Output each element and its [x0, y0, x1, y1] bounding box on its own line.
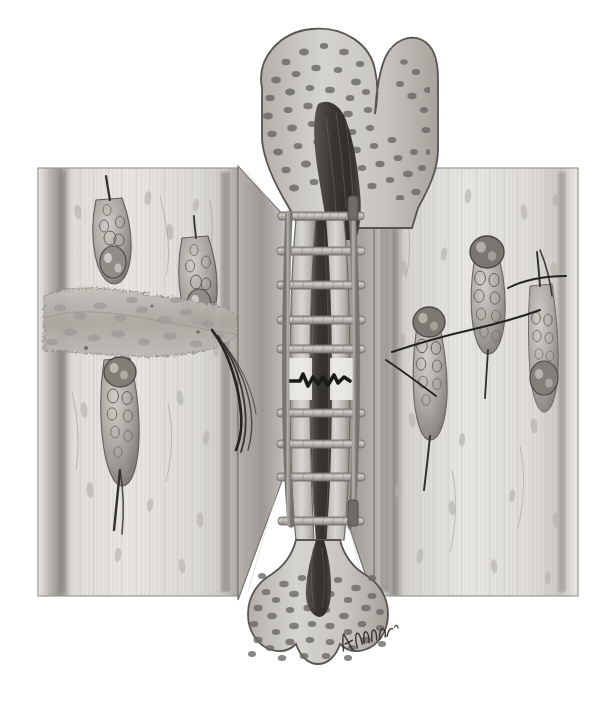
medical-illustration — [0, 0, 612, 716]
paper-grain — [0, 0, 612, 716]
illustration-stage: J.Kolm — [0, 0, 612, 716]
